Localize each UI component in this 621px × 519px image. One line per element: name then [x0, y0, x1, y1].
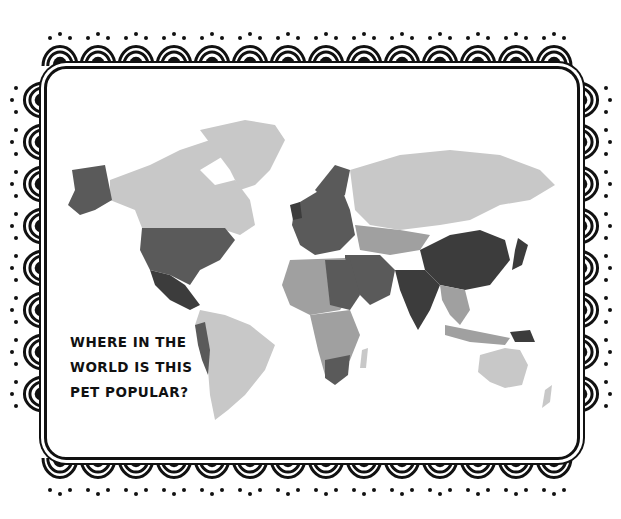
- map-region-central-asia: [355, 225, 430, 255]
- map-region-indonesia: [445, 325, 510, 345]
- caption-line-2: WORLD IS THIS: [70, 355, 210, 380]
- map-region-australia: [478, 348, 528, 388]
- map-region-madagascar: [360, 348, 368, 368]
- map-region-southern-africa: [325, 355, 350, 385]
- caption-line-1: WHERE IN THE: [70, 330, 210, 355]
- map-region-alaska: [68, 165, 112, 215]
- map-region-southeast-asia: [440, 285, 470, 325]
- map-region-new-zealand: [542, 385, 552, 408]
- map-region-papua: [510, 330, 535, 342]
- map-region-uk: [290, 202, 302, 220]
- caption-line-3: PET POPULAR?: [70, 380, 210, 405]
- map-region-russia: [350, 150, 555, 230]
- map-region-india: [395, 270, 440, 330]
- map-region-japan: [512, 238, 528, 270]
- map-caption: WHERE IN THE WORLD IS THIS PET POPULAR?: [70, 330, 210, 405]
